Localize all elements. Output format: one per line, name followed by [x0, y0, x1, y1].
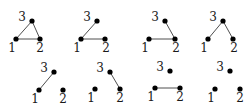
vertex-label-2: 2 [36, 41, 44, 55]
vertex-3 [94, 18, 99, 23]
edge-2-3 [32, 21, 40, 39]
vertex-label-1: 1 [87, 91, 95, 105]
vertex-label-1: 1 [200, 41, 208, 55]
edge-2-3 [110, 72, 120, 89]
graph-2: 123 [73, 10, 110, 55]
vertex-label-3: 3 [156, 60, 164, 74]
vertex-label-3: 3 [18, 10, 26, 24]
vertex-label-3: 3 [96, 61, 104, 75]
graph-6: 123 [87, 61, 124, 105]
vertex-3 [51, 69, 56, 74]
graph-7: 123 [147, 60, 184, 104]
vertex-3 [29, 18, 34, 23]
vertex-label-2: 2 [59, 92, 67, 106]
vertex-label-2: 2 [172, 41, 180, 55]
vertex-label-2: 2 [236, 91, 244, 105]
vertex-label-2: 2 [230, 41, 238, 55]
vertex-3 [167, 68, 172, 73]
edge-2-3 [223, 21, 233, 39]
vertex-label-2: 2 [116, 91, 124, 105]
vertex-label-1: 1 [31, 92, 39, 106]
graph-5: 123 [31, 61, 67, 106]
graph-8: 123 [207, 60, 244, 105]
graph-4: 123 [200, 10, 238, 55]
vertex-label-3: 3 [151, 10, 159, 24]
vertex-label-3: 3 [40, 61, 48, 75]
vertex-label-3: 3 [216, 60, 224, 74]
vertex-label-3: 3 [209, 10, 217, 24]
vertex-label-1: 1 [73, 41, 81, 55]
graph-figure: 123123123123123123123123 [0, 0, 252, 107]
graph-1: 123 [8, 10, 44, 55]
vertex-label-2: 2 [102, 41, 110, 55]
vertex-label-2: 2 [176, 90, 184, 104]
vertex-3 [220, 18, 225, 23]
edge-2-3 [165, 21, 175, 39]
vertex-label-3: 3 [83, 10, 91, 24]
graph-3: 123 [141, 10, 180, 55]
vertex-label-1: 1 [147, 90, 155, 104]
vertex-3 [107, 69, 112, 74]
vertex-3 [162, 18, 167, 23]
vertex-label-1: 1 [141, 41, 149, 55]
vertex-label-1: 1 [8, 41, 16, 55]
vertex-label-1: 1 [207, 91, 215, 105]
vertex-3 [227, 68, 232, 73]
